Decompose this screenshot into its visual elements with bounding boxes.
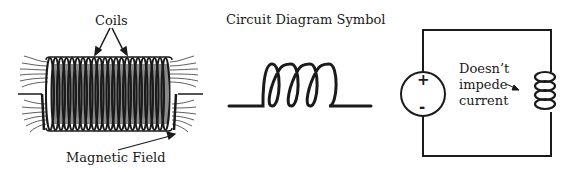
inductor-note: Doesn’t impede current: [459, 61, 509, 109]
circuit-inductor: [535, 72, 555, 109]
coils-arrows: [95, 28, 127, 55]
source-plus-sign: +: [417, 73, 430, 88]
coils-label: Coils: [95, 14, 128, 27]
symbol-title: Circuit Diagram Symbol: [226, 13, 385, 26]
note-line-1: Doesn’t: [459, 61, 509, 77]
note-line-2: impede: [459, 77, 509, 93]
magnetic-field-arrow: [118, 132, 175, 150]
inductor-symbol: [229, 64, 371, 106]
source-minus-sign: -: [419, 100, 425, 115]
note-line-3: current: [459, 93, 509, 109]
physical-inductor: [18, 56, 203, 132]
wire-bottom: [423, 112, 551, 156]
magnetic-field-label: Magnetic Field: [66, 151, 166, 164]
